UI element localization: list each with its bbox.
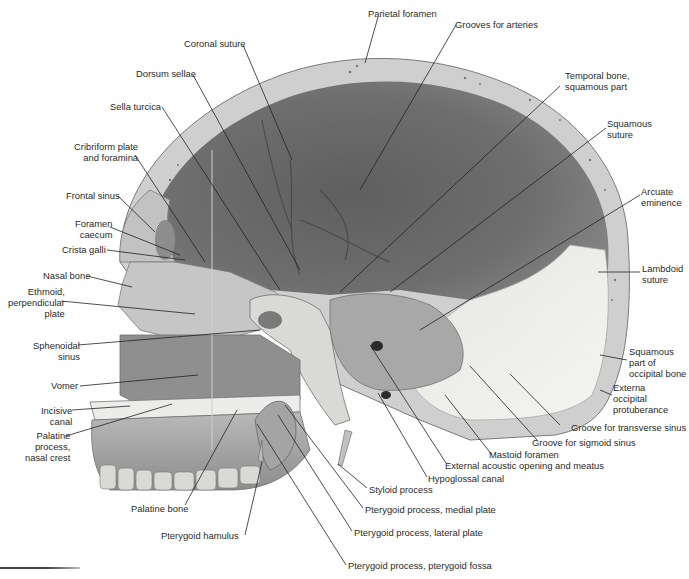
label-dorsum-sellae: Dorsum sellae <box>136 68 196 79</box>
label-sphenoidal-sinus: Sphenoidal sinus <box>33 340 80 362</box>
hypoglossal-canal-opening <box>381 391 391 399</box>
label-crista-galli: Crista galli <box>62 244 106 255</box>
label-sella-turcica: Sella turcica <box>110 101 161 112</box>
label-pterygoid-hamulus: Pterygoid hamulus <box>161 530 239 541</box>
label-ethmoid-perpendicular-plate: Ethmoid, perpendicular plate <box>8 286 65 319</box>
page-edge-rule <box>0 567 80 569</box>
label-groove-transverse-sinus: Groove for transverse sinus <box>571 422 686 433</box>
skull-sagittal-section-figure: Parietal foramen Grooves for arteries Co… <box>0 0 689 579</box>
label-groove-sigmoid-sinus: Groove for sigmoid sinus <box>532 437 636 448</box>
label-squamous-part-occipital: Squamous part of occipital bone <box>629 346 686 379</box>
label-parietal-foramen: Parietal foramen <box>368 8 437 19</box>
sphenoidal-sinus-cavity <box>258 311 282 329</box>
label-nasal-bone: Nasal bone <box>43 270 90 281</box>
styloid-process-shape <box>338 430 352 466</box>
label-external-acoustic-opening: External acoustic opening and meatus <box>445 460 604 471</box>
label-externa-occipital-protuberance: Externa occipital protuberance <box>613 382 668 415</box>
label-incisive-canal: Incisive canal <box>41 405 72 427</box>
label-pterygoid-fossa: Pterygoid process, pterygoid fossa <box>348 560 492 571</box>
label-pterygoid-lateral-plate: Pterygoid process, lateral plate <box>354 527 483 538</box>
label-coronal-suture: Coronal suture <box>184 38 246 49</box>
label-grooves-for-arteries: Grooves for arteries <box>455 19 538 30</box>
label-temporal-bone-squamous: Temporal bone, squamous part <box>565 70 630 92</box>
label-cribriform-plate: Cribriform plate and foramina <box>74 141 138 163</box>
label-vomer: Vomer <box>51 380 78 391</box>
label-palatine-process-nasal-crest: Palatine process, nasal crest <box>25 430 70 463</box>
label-pterygoid-medial-plate: Pterygoid process, medial plate <box>365 504 496 515</box>
label-squamous-suture: Squamous suture <box>607 118 652 140</box>
label-foramen-caecum: Foramen caecum <box>75 218 113 240</box>
label-hypoglossal-canal: Hypoglossal canal <box>428 473 504 484</box>
label-palatine-bone: Palatine bone <box>131 503 188 514</box>
label-lambdoid-suture: Lambdoid suture <box>642 263 683 285</box>
label-styloid-process: Styloid process <box>369 484 433 495</box>
label-frontal-sinus: Frontal sinus <box>66 190 120 201</box>
label-arcuate-eminence: Arcuate eminence <box>641 186 682 208</box>
label-mastoid-foramen: Mastoid foramen <box>489 449 559 460</box>
frontal-sinus-cavity <box>155 220 175 260</box>
